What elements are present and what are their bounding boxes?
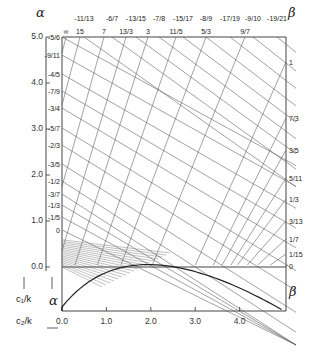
alpha-top-label: -11/13 xyxy=(74,15,93,22)
dense-line xyxy=(62,261,118,279)
alpha-bottom-symbol: α xyxy=(49,293,58,308)
alpha-line xyxy=(62,181,296,332)
beta-right-label: 3/5 xyxy=(289,147,299,154)
dense-line xyxy=(62,259,122,277)
beta-right-label: 7/3 xyxy=(289,115,299,122)
c1-tick-label: 3.0 xyxy=(31,124,43,133)
alpha-line xyxy=(62,164,296,312)
beta-top-label: 3 xyxy=(146,28,150,35)
beta-top-label: ∞ xyxy=(64,28,69,35)
alpha-left-label: -3/5 xyxy=(48,161,60,168)
alpha-left-label: -1/3 xyxy=(48,202,60,209)
beta-top-label: 15 xyxy=(76,28,84,35)
alpha-left-label: 0 xyxy=(56,227,60,234)
beta-line xyxy=(247,221,286,265)
beta-top-symbol: β xyxy=(288,5,296,20)
c1-tick-label: 1.0 xyxy=(31,216,43,225)
alpha-top-label: -6/7 xyxy=(106,15,118,22)
beta-right-label: 1 xyxy=(289,59,293,66)
alpha-top-label: -17/19 xyxy=(220,15,240,22)
c1-tick-label: 4.0 xyxy=(31,78,43,87)
alpha-line xyxy=(183,37,296,122)
c2-axis-label: c₂/k xyxy=(16,315,32,326)
beta-line xyxy=(237,199,286,265)
dense-line xyxy=(62,240,170,253)
beta-right-label: 0 xyxy=(289,263,293,270)
beta-right-label: 1/3 xyxy=(289,196,299,203)
dense-line xyxy=(62,262,114,281)
alpha-top-label: -15/17 xyxy=(173,15,193,22)
beta-right-label: 1/7 xyxy=(289,236,299,243)
alpha-line xyxy=(206,37,296,106)
beta-bottom-symbol: β xyxy=(289,284,297,299)
alpha-left-label: -1/5 xyxy=(48,214,60,221)
alpha-line xyxy=(62,108,296,248)
alpha-line xyxy=(62,230,296,345)
beta-right-label: 1/15 xyxy=(289,251,303,258)
alpha-left-label: -7/9 xyxy=(48,88,60,95)
alpha-left-label: -5/7 xyxy=(48,125,60,132)
alpha-top-label: -9/10 xyxy=(245,15,261,22)
beta-line xyxy=(75,37,148,265)
alpha-line xyxy=(159,37,296,139)
beta-top-label: 5/3 xyxy=(201,28,211,35)
c1-tick-label: 0.0 xyxy=(31,262,43,271)
nomogram-diagram: α β α β c₁/k c₂/k 5.04.03.02.01.00.00.01… xyxy=(0,0,313,354)
c1-axis-label: c₁/k xyxy=(16,293,31,304)
alpha-left-label: -9/11 xyxy=(45,52,60,59)
alpha-line xyxy=(84,37,296,187)
alpha-line xyxy=(112,37,296,169)
alpha-top-label: -8/9 xyxy=(200,15,212,22)
alpha-line xyxy=(62,37,296,166)
beta-line xyxy=(231,178,286,265)
beta-right-label: 3/13 xyxy=(289,218,303,225)
beta-line xyxy=(195,62,286,265)
alpha-top-label: -13/15 xyxy=(126,15,146,22)
dense-line xyxy=(62,254,134,271)
beta-line xyxy=(152,37,245,265)
c1-tick-label: 2.0 xyxy=(31,170,43,179)
dense-line xyxy=(62,257,126,275)
c2-tick-label: 0.0 xyxy=(56,317,68,326)
alpha-top-symbol: α xyxy=(36,5,45,20)
beta-top-label: 9/7 xyxy=(240,28,250,35)
beta-right-label: 5/11 xyxy=(289,175,302,182)
c2-tick-label: 2.0 xyxy=(145,317,157,326)
alpha-left-label: -2/3 xyxy=(48,142,60,149)
alpha-line xyxy=(62,91,296,228)
dense-line xyxy=(62,241,166,255)
beta-line xyxy=(258,239,286,265)
alpha-top-label: -19/21 xyxy=(267,15,287,22)
c1-tick-label: 5.0 xyxy=(31,32,43,41)
alpha-line xyxy=(62,74,296,208)
alpha-left-label: -3/4 xyxy=(48,105,60,112)
beta-top-label: 13/3 xyxy=(119,28,133,35)
alpha-top-label: -7/8 xyxy=(153,15,165,22)
c2-tick-label: 1.0 xyxy=(100,317,112,326)
alpha-left-label: -5/6 xyxy=(48,34,60,41)
beta-line xyxy=(62,37,66,53)
beta-top-label: 7 xyxy=(102,28,106,35)
alpha-line xyxy=(136,37,296,154)
alpha-left-label: -3/7 xyxy=(48,191,60,198)
alpha-left-label: -1/2 xyxy=(48,178,60,185)
alpha-left-label: -4/5 xyxy=(48,71,60,78)
c2-tick-label: 4.0 xyxy=(234,317,246,326)
beta-line xyxy=(62,37,80,105)
c2-tick-label: 3.0 xyxy=(189,317,201,326)
beta-top-label: 11/5 xyxy=(169,28,182,35)
